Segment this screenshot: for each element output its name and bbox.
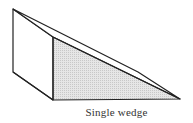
- wedge-diagram: [0, 0, 193, 123]
- figure-caption: Single wedge: [0, 106, 193, 118]
